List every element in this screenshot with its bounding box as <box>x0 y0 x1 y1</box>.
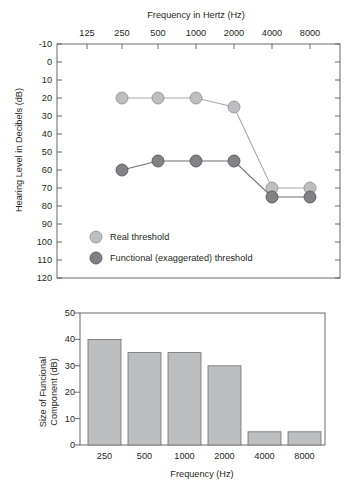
y-tick-label: 100 <box>37 237 52 247</box>
legend-label-functional-threshold: Functional (exaggerated) threshold <box>110 253 253 263</box>
bottom-chart-y-axis-title-line1: Size of Funcional <box>38 357 48 427</box>
real-threshold-line <box>122 98 310 188</box>
y-tick-label: 90 <box>42 219 52 229</box>
top-chart-x-ticks <box>87 44 310 49</box>
x-tick-label: 2000 <box>224 28 244 38</box>
y-tick-label: 50 <box>42 147 52 157</box>
y-tick-label: 30 <box>42 111 52 121</box>
x-tick-label: 8000 <box>294 451 314 461</box>
y-tick-label: 0 <box>70 440 75 450</box>
bar <box>288 432 321 445</box>
top-chart-y-axis-title: Hearing Level in Decibels (dB) <box>14 88 24 212</box>
x-tick-label: 500 <box>150 28 165 38</box>
audiogram-figure: Frequency in Hertz (Hz) Hearing Level in… <box>0 0 353 488</box>
functional-threshold-line <box>122 161 310 197</box>
x-tick-label: 1000 <box>174 451 194 461</box>
legend-label-real-threshold: Real threshold <box>110 232 169 242</box>
functional-threshold-markers <box>116 155 316 203</box>
x-tick-label: 250 <box>97 451 112 461</box>
x-tick-label: 125 <box>79 28 94 38</box>
bottom-chart-y-tick-labels: 0 10 20 30 40 50 <box>65 308 75 450</box>
y-tick-label: 20 <box>65 387 75 397</box>
y-tick-label: 40 <box>42 129 52 139</box>
y-tick-label: 10 <box>42 75 52 85</box>
x-tick-label: 500 <box>137 451 152 461</box>
x-tick-label: 2000 <box>214 451 234 461</box>
functional-component-bar-chart: Size of Funcional Component (dB) 0 10 20… <box>0 290 353 488</box>
x-tick-label: 250 <box>114 28 129 38</box>
y-tick-label: 0 <box>47 57 52 67</box>
bottom-chart-bars <box>88 339 321 445</box>
bar <box>248 432 281 445</box>
top-chart-legend: Real threshold Functional (exaggerated) … <box>90 231 253 264</box>
y-tick-label: 20 <box>42 93 52 103</box>
y-tick-label: 80 <box>42 201 52 211</box>
legend-swatch-real-threshold <box>90 231 102 243</box>
x-tick-label: 4000 <box>262 28 282 38</box>
bottom-chart-x-tick-labels: 250 500 1000 2000 4000 8000 <box>97 451 315 461</box>
y-tick-label: -10 <box>39 39 52 49</box>
top-chart-x-tick-labels: 125 250 500 1000 2000 4000 8000 <box>79 28 320 38</box>
y-tick-label: 60 <box>42 165 52 175</box>
y-tick-label: 110 <box>37 255 52 265</box>
bottom-chart-y-axis-title: Size of Funcional Component (dB) <box>38 357 59 427</box>
y-tick-label: 120 <box>37 273 52 283</box>
y-tick-label: 30 <box>65 361 75 371</box>
top-chart-y-tick-labels: -10 0 10 20 30 40 50 60 70 80 90 100 110… <box>37 39 52 283</box>
y-tick-label: 10 <box>65 414 75 424</box>
x-tick-label: 1000 <box>186 28 206 38</box>
bar <box>128 353 161 445</box>
x-tick-label: 4000 <box>254 451 274 461</box>
legend-swatch-functional-threshold <box>90 252 102 264</box>
y-tick-label: 50 <box>65 308 75 318</box>
bar <box>88 339 121 445</box>
real-threshold-markers <box>116 92 316 194</box>
bottom-chart-x-axis-title: Frequency (Hz) <box>170 469 233 479</box>
audiogram-line-chart: Frequency in Hertz (Hz) Hearing Level in… <box>0 0 353 290</box>
y-tick-label: 40 <box>65 334 75 344</box>
bottom-chart-y-ticks <box>75 313 80 445</box>
top-chart-x-axis-title: Frequency in Hertz (Hz) <box>147 10 245 20</box>
y-tick-label: 70 <box>42 183 52 193</box>
x-tick-label: 8000 <box>300 28 320 38</box>
bar <box>208 366 241 445</box>
bottom-chart-y-axis-title-line2: Component (dB) <box>49 358 59 425</box>
bar <box>168 353 201 445</box>
